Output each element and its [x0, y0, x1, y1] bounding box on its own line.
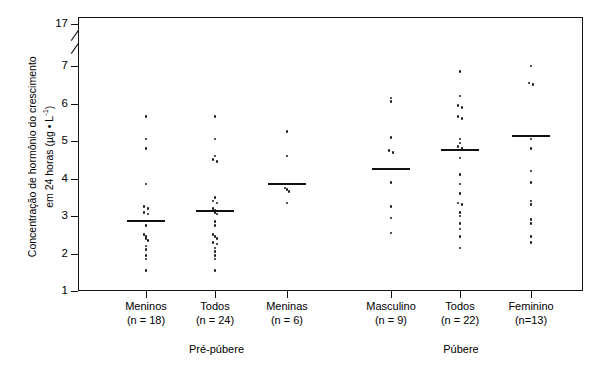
x-tick-4 — [460, 291, 461, 298]
y-axis-labels: 177654321 — [36, 0, 68, 369]
data-point — [530, 181, 533, 184]
data-point — [388, 149, 391, 152]
x-section-label-pre-pubere: Pré-púbere — [137, 343, 297, 355]
data-point — [145, 224, 148, 227]
y-tick-label-3: 3 — [40, 210, 68, 222]
y-tick-label-4: 4 — [40, 173, 68, 185]
data-point — [459, 211, 462, 214]
y-tick-4 — [71, 179, 78, 180]
x-tick-5 — [531, 291, 532, 298]
y-tick-label-17: 17 — [40, 18, 68, 30]
data-point — [214, 196, 217, 199]
data-point — [143, 205, 146, 208]
x-group-name: Todos — [200, 300, 229, 312]
x-group-count: (n=13) — [476, 314, 586, 328]
data-point — [457, 145, 460, 148]
mean-line — [268, 183, 306, 185]
data-point — [214, 254, 217, 257]
data-point — [390, 136, 393, 139]
y-tick-6 — [71, 104, 78, 105]
data-point — [143, 211, 146, 214]
data-point — [212, 241, 215, 244]
plot-frame — [78, 17, 583, 291]
mean-line — [196, 210, 234, 212]
mean-line — [127, 220, 165, 222]
y-tick-1 — [71, 291, 78, 292]
y-tick-label-5: 5 — [40, 135, 68, 147]
data-point — [145, 269, 148, 272]
y-tick-label-7: 7 — [40, 60, 68, 72]
data-point — [530, 241, 533, 244]
x-tick-1 — [215, 291, 216, 298]
x-tick-0 — [146, 291, 147, 298]
y-tick-label-6: 6 — [40, 98, 68, 110]
x-tick-3 — [391, 291, 392, 298]
x-section-label-pubere: Púbere — [381, 343, 541, 355]
x-group-name: Meninas — [266, 300, 308, 312]
chart-canvas: Concentração de hormônio do crescimento … — [0, 0, 605, 369]
y-tick-7 — [71, 66, 78, 67]
x-group-name: Feminino — [508, 300, 553, 312]
mean-line — [441, 149, 479, 151]
y-tick-5 — [71, 141, 78, 142]
data-point — [457, 104, 460, 107]
data-point — [214, 269, 217, 272]
y-tick-3 — [71, 216, 78, 217]
y-tick-17 — [71, 24, 78, 25]
y-tick-2 — [71, 254, 78, 255]
x-group-name: Todos — [445, 300, 474, 312]
x-tick-2 — [287, 291, 288, 298]
y-tick-label-1: 1 — [40, 285, 68, 297]
mean-line — [512, 135, 550, 137]
data-point — [145, 254, 148, 257]
data-point — [214, 224, 217, 227]
x-group-count: (n = 6) — [232, 314, 342, 328]
x-group-label-feminino: Feminino(n=13) — [476, 300, 586, 327]
data-point — [390, 181, 393, 184]
data-point — [457, 115, 460, 118]
x-group-label-meninas: Meninas(n = 6) — [232, 300, 342, 327]
y-tick-label-2: 2 — [40, 248, 68, 260]
mean-line — [372, 168, 410, 170]
